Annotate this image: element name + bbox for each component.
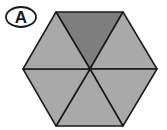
label-letter: A (15, 8, 27, 27)
hexagon (23, 12, 157, 126)
figure-label: A (6, 7, 36, 27)
hexagon-figure: A (0, 0, 167, 130)
